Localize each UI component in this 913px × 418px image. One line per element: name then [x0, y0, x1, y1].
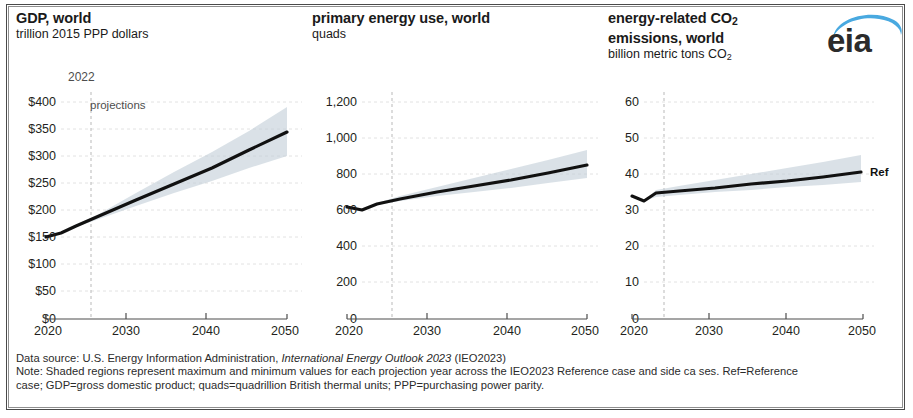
- svg-text:40: 40: [625, 167, 639, 181]
- svg-text:1,200: 1,200: [326, 95, 357, 109]
- panel-energy-subtitle: quads: [310, 27, 606, 42]
- energy-ytick-labels: 1,200 1,000 800 600 400 200 0: [326, 95, 357, 326]
- svg-text:2030: 2030: [112, 324, 140, 338]
- svg-text:600: 600: [336, 203, 357, 217]
- eia-logo-text: eia: [827, 22, 873, 58]
- svg-text:2030: 2030: [695, 324, 723, 338]
- co2-x-tickmarks: [709, 313, 786, 319]
- svg-text:2020: 2020: [34, 324, 62, 338]
- svg-text:$50: $50: [35, 284, 56, 298]
- svg-text:2050: 2050: [571, 324, 599, 338]
- energy-uncertainty-band: [347, 150, 587, 210]
- svg-text:$400: $400: [28, 95, 56, 109]
- footnote-source-suffix: (IEO2023): [451, 352, 506, 364]
- svg-text:20: 20: [625, 239, 639, 253]
- svg-text:30: 30: [625, 203, 639, 217]
- panel-co2-plot: 60 50 40 30 20 10 0 2020 2030 2040: [606, 88, 906, 343]
- svg-text:400: 400: [336, 239, 357, 253]
- panel-gdp: GDP, world trillion 2015 PPP dollars: [14, 10, 310, 350]
- svg-text:60: 60: [625, 95, 639, 109]
- panel-co2-emissions: energy-related CO2 emissions, world bill…: [606, 10, 906, 350]
- svg-text:2050: 2050: [271, 324, 299, 338]
- panel-gdp-plot: $400 $350 $300 $250 $200 $150 $100 $50 $…: [14, 88, 310, 343]
- panel-co2-title-subscript: 2: [732, 16, 738, 27]
- energy-reference-line: [347, 165, 587, 210]
- footnote-note-line1: Note: Shaded regions represent maximum a…: [16, 365, 898, 378]
- co2-x-axis: [632, 314, 863, 319]
- svg-text:2050: 2050: [848, 324, 876, 338]
- panel-energy-title: primary energy use, world: [310, 10, 606, 26]
- svg-text:200: 200: [336, 275, 357, 289]
- energy-xtick-labels: 2020 2030 2040 2050: [335, 324, 599, 338]
- energy-x-axis: [347, 314, 587, 319]
- panel-gdp-title: GDP, world: [14, 10, 310, 26]
- gdp-chart-svg: $400 $350 $300 $250 $200 $150 $100 $50 $…: [14, 88, 310, 343]
- energy-gridlines: [362, 102, 598, 282]
- gdp-label-projections: projections: [90, 99, 146, 111]
- svg-text:$350: $350: [28, 122, 56, 136]
- svg-text:2020: 2020: [335, 324, 363, 338]
- gdp-x-tickmarks: [126, 313, 206, 319]
- eia-logo: eia: [821, 8, 907, 58]
- gdp-uncertainty-band: [46, 107, 287, 237]
- svg-text:2040: 2040: [192, 324, 220, 338]
- svg-text:2040: 2040: [493, 324, 521, 338]
- svg-text:10: 10: [625, 275, 639, 289]
- panel-energy-plot: 1,200 1,000 800 600 400 200 0 2020 2030 …: [310, 88, 606, 343]
- svg-text:2020: 2020: [620, 324, 648, 338]
- footnote-note-line2: case; GDP=gross domestic product; quads=…: [16, 379, 898, 392]
- panel-primary-energy-use: primary energy use, world quads 1,200 1,…: [310, 10, 606, 350]
- svg-text:800: 800: [336, 167, 357, 181]
- panel-co2-subtitle-subscript: 2: [727, 52, 732, 62]
- svg-text:50: 50: [625, 131, 639, 145]
- svg-text:$100: $100: [28, 257, 56, 271]
- svg-text:$200: $200: [28, 203, 56, 217]
- co2-chart-svg: 60 50 40 30 20 10 0 2020 2030 2040: [606, 88, 906, 343]
- gdp-ytick-labels: $400 $350 $300 $250 $200 $150 $100 $50 $…: [28, 95, 56, 326]
- co2-xtick-labels: 2020 2030 2040 2050: [620, 324, 876, 338]
- energy-chart-svg: 1,200 1,000 800 600 400 200 0 2020 2030 …: [310, 88, 606, 343]
- footnote-source: Data source: U.S. Energy Information Adm…: [16, 352, 898, 365]
- energy-x-tickmarks: [427, 313, 507, 319]
- svg-text:$300: $300: [28, 149, 56, 163]
- svg-text:2040: 2040: [772, 324, 800, 338]
- svg-text:2030: 2030: [413, 324, 441, 338]
- gdp-xtick-labels: 2020 2030 2040 2050: [34, 324, 299, 338]
- footnote-source-italic: International Energy Outlook 2023: [282, 352, 452, 364]
- svg-text:$150: $150: [28, 230, 56, 244]
- co2-series-label-ref: Ref: [870, 166, 889, 178]
- svg-text:1,000: 1,000: [326, 131, 357, 145]
- svg-text:$250: $250: [28, 176, 56, 190]
- panel-co2-subtitle-text: billion metric tons CO: [608, 47, 727, 61]
- eia-ieo2023-world-projections-figure: GDP, world trillion 2015 PPP dollars: [0, 0, 913, 418]
- panel-co2-title-text: energy-related CO: [608, 10, 732, 26]
- gdp-label-2022: 2022: [68, 70, 95, 84]
- panel-gdp-subtitle: trillion 2015 PPP dollars: [14, 27, 310, 42]
- footnotes: Data source: U.S. Energy Information Adm…: [16, 352, 898, 392]
- gdp-x-axis: [46, 314, 287, 319]
- footnote-source-prefix: Data source: U.S. Energy Information Adm…: [16, 352, 282, 364]
- co2-ytick-labels: 60 50 40 30 20 10 0: [625, 95, 639, 326]
